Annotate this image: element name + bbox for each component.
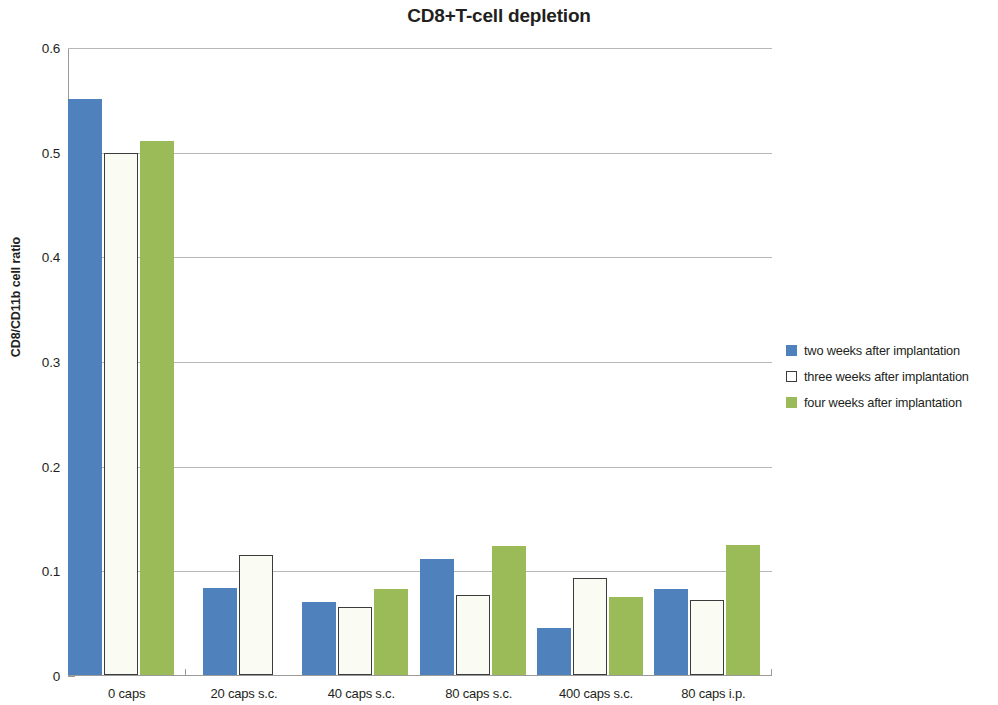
- bar: [420, 559, 454, 675]
- legend-swatch-icon: [786, 345, 797, 356]
- x-axis-category-label: 400 caps s.c.: [537, 686, 654, 701]
- bar: [239, 555, 273, 675]
- bar-group: [537, 48, 654, 676]
- chart-title: CD8+T-cell depletion: [0, 5, 998, 27]
- bar-group: [420, 48, 537, 676]
- bar: [726, 545, 760, 675]
- x-axis-category-label: 80 caps i.p.: [655, 686, 772, 701]
- bar: [104, 153, 138, 675]
- bar: [609, 597, 643, 676]
- x-axis-category-label: 20 caps s.c.: [185, 686, 302, 701]
- legend-label: four weeks after implantation: [804, 395, 962, 410]
- bar: [68, 99, 102, 675]
- bar: [690, 600, 724, 675]
- bar: [140, 141, 174, 675]
- bar: [456, 595, 490, 675]
- bar: [573, 578, 607, 675]
- x-axis-category-label: 0 caps: [68, 686, 185, 701]
- y-tick-label: 0.4: [16, 250, 60, 265]
- x-axis-category-label: 80 caps s.c.: [420, 686, 537, 701]
- bar: [654, 589, 688, 675]
- bar: [203, 588, 237, 675]
- bar: [537, 628, 571, 675]
- bar: [302, 602, 336, 675]
- legend-label: three weeks after implantation: [804, 369, 969, 384]
- y-axis-ticks: 00.10.20.30.40.50.6: [10, 48, 60, 676]
- bar-group: [68, 48, 185, 676]
- legend-swatch-icon: [786, 397, 797, 408]
- plot-area: [68, 48, 772, 676]
- y-tick-label: 0: [16, 669, 60, 684]
- y-tick-label: 0.1: [16, 564, 60, 579]
- bar-group: [655, 48, 772, 676]
- bar: [492, 546, 526, 675]
- bar: [374, 589, 408, 675]
- legend-item[interactable]: four weeks after implantation: [786, 390, 996, 414]
- y-tick-label: 0.6: [16, 41, 60, 56]
- bar-group: [303, 48, 420, 676]
- bar: [338, 607, 372, 675]
- legend-item[interactable]: two weeks after implantation: [786, 338, 996, 362]
- legend-label: two weeks after implantation: [804, 343, 960, 358]
- legend-swatch-icon: [786, 371, 797, 382]
- chart-legend: two weeks after implantationthree weeks …: [786, 338, 996, 416]
- y-tick-label: 0.2: [16, 459, 60, 474]
- x-axis-category-label: 40 caps s.c.: [303, 686, 420, 701]
- y-tick-label: 0.3: [16, 355, 60, 370]
- y-tick-label: 0.5: [16, 145, 60, 160]
- bar-group: [185, 48, 302, 676]
- x-tick-mark: [185, 669, 186, 676]
- x-tick-mark: [771, 669, 772, 676]
- legend-item[interactable]: three weeks after implantation: [786, 364, 996, 388]
- y-tick-mark: [68, 676, 75, 677]
